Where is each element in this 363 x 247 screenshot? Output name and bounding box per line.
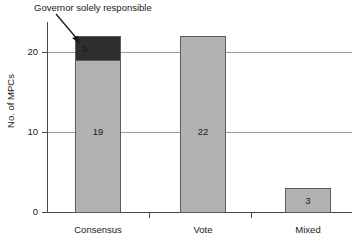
bar-mixed[interactable]: 3: [285, 188, 331, 213]
bar-value-mixed: 3: [286, 196, 330, 206]
y-axis-spine: [47, 22, 48, 213]
bar-value-vote: 22: [181, 127, 225, 137]
x-tick-label-vote: Vote: [163, 224, 243, 235]
bar-vote[interactable]: 22: [180, 36, 226, 213]
y-tick-mark-10: [42, 132, 47, 133]
y-tick-mark-0: [42, 212, 47, 213]
annotation-label: Governor solely responsible: [34, 2, 152, 14]
x-tick-mark-1: [149, 213, 150, 218]
bar-chart: 20 10 0 No. of MPCs 19 3 22 3 Governor s…: [0, 0, 363, 247]
y-tick-label-20: 20: [27, 47, 38, 57]
bar-consensus-base[interactable]: 19: [75, 60, 121, 213]
bar-value-consensus-base: 19: [76, 127, 120, 137]
x-tick-label-mixed: Mixed: [268, 224, 348, 235]
y-tick-label-10: 10: [27, 127, 38, 137]
x-tick-label-consensus: Consensus: [58, 224, 138, 235]
annotation-arrow-icon: [54, 12, 90, 50]
y-tick-label-0: 0: [33, 207, 38, 217]
y-axis-title: No. of MPCs: [6, 56, 16, 146]
y-tick-mark-20: [42, 52, 47, 53]
x-tick-mark-2: [251, 213, 252, 218]
